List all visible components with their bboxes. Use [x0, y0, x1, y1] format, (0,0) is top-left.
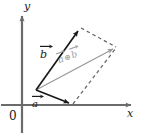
figure-canvas: [0, 0, 142, 133]
vector-b-label: b: [40, 44, 47, 60]
y-axis-label: y: [24, 1, 30, 12]
vector-a-arrow-accent-icon: [32, 94, 38, 99]
dashed-line-b-to-resultant: [81, 28, 116, 47]
x-axis-label: x: [127, 108, 133, 119]
vector-a-label: a: [32, 94, 38, 109]
construction-lines-group: [73, 28, 116, 104]
vector-b-arrow-accent-icon: [40, 44, 47, 49]
dashed-line-a-to-resultant: [73, 48, 116, 104]
vector-a-label-text: a: [32, 99, 38, 109]
origin-label: 0: [9, 110, 17, 122]
vector-b-label-text: b: [40, 49, 47, 60]
vector-addition-figure: y x 0 b a a: [0, 0, 142, 133]
